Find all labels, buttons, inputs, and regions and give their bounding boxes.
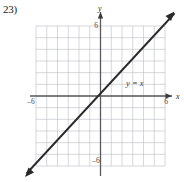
- y-tick-negative-six: –6: [91, 156, 100, 165]
- y-tick-positive-six: 6: [94, 21, 98, 30]
- equation-annotation: y = x: [125, 78, 144, 88]
- coordinate-plane-graph: x y –6 6 6 –6 y = x: [0, 0, 184, 182]
- problem-figure-page: 23): [0, 0, 184, 182]
- y-axis-label: y: [97, 4, 102, 13]
- x-tick-positive-six: 6: [164, 97, 168, 106]
- x-tick-negative-six: –6: [26, 97, 35, 106]
- x-axis-label: x: [175, 92, 180, 101]
